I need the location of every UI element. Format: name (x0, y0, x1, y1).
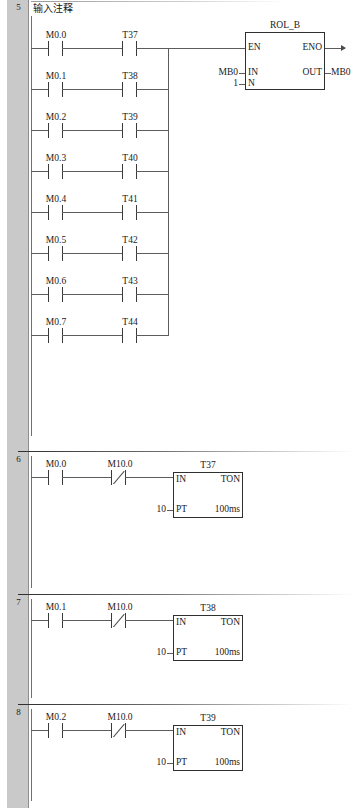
contact-m03[interactable] (48, 164, 63, 179)
contact-t37[interactable] (122, 41, 137, 56)
n8-timer-preset[interactable]: 10 (136, 757, 166, 768)
rung-5-wire-b (62, 212, 123, 213)
n8-wire-c (125, 730, 174, 731)
contact-n8-m02[interactable] (48, 723, 63, 738)
rung-4-wire-a (31, 171, 49, 172)
rung-5-wire-a (31, 212, 49, 213)
n8-timer-pin-pt: PT (176, 757, 187, 768)
n8-timer-timebase: 100ms (192, 757, 240, 768)
rolb-out-stub (325, 73, 331, 74)
rung-4-wire-c (136, 171, 169, 172)
network-5-title-rule (31, 1, 287, 2)
rolb-eno-arrow-icon (341, 45, 346, 51)
n6-timer-instance[interactable]: T37 (173, 460, 243, 471)
contact-m05[interactable] (48, 246, 63, 261)
n7-wire-b (62, 620, 112, 621)
rolb-pin-in: IN (248, 67, 258, 78)
contact-label-m01: M0.1 (38, 71, 74, 82)
contact-n7-m100-nc[interactable] (111, 613, 126, 628)
network-7-gutter (7, 595, 29, 705)
contact-label-t42: T42 (112, 235, 148, 246)
contact-label-t38: T38 (112, 71, 148, 82)
contact-t41[interactable] (122, 205, 137, 220)
network-8[interactable]: 8 M0.2 M10.0 T39 IN TON PT 100ms 10 (0, 705, 353, 808)
network-6[interactable]: 6 M0.0 M10.0 T37 IN TON PT 100ms 10 (0, 452, 353, 595)
rung-3-wire-c (136, 130, 169, 131)
network-5-number: 5 (9, 2, 28, 13)
contact-t44[interactable] (122, 328, 137, 343)
contact-m04[interactable] (48, 205, 63, 220)
parallel-branch-bus (168, 48, 169, 336)
rolb-pin-out: OUT (282, 67, 322, 78)
contact-m01[interactable] (48, 82, 63, 97)
rung-3-wire-a (31, 130, 49, 131)
contact-t40[interactable] (122, 164, 137, 179)
contact-label-m05: M0.5 (38, 235, 74, 246)
network-5-power-rail (31, 16, 32, 436)
rolb-n-value[interactable]: 1 (206, 78, 238, 89)
contact-n6-m00[interactable] (48, 470, 63, 485)
n7-wire-a (31, 620, 49, 621)
rung-7-wire-b (62, 294, 123, 295)
n7-timer-instance[interactable]: T38 (173, 603, 243, 614)
network-6-number: 6 (9, 454, 28, 465)
contact-label-n6-m00: M0.0 (38, 459, 74, 470)
n7-timer-pin-in: IN (176, 617, 186, 628)
rung-3-wire-b (62, 130, 123, 131)
network-8-number: 8 (9, 707, 28, 718)
contact-m02[interactable] (48, 123, 63, 138)
n8-timer-instance[interactable]: T39 (173, 713, 243, 724)
n6-timer-pt-stub (167, 510, 173, 511)
contact-m00[interactable] (48, 41, 63, 56)
n7-wire-c (125, 620, 174, 621)
contact-m06[interactable] (48, 287, 63, 302)
rung-2-wire-a (31, 89, 49, 90)
n7-timer-timebase: 100ms (192, 647, 240, 658)
contact-n6-m100-nc[interactable] (111, 470, 126, 485)
n7-timer-type: TON (200, 617, 240, 628)
contact-label-t40: T40 (112, 153, 148, 164)
network-5[interactable]: 5 输入注释 M0.0 T37 M0.1 T38 M0.2 T39 M0.3 T… (0, 0, 353, 452)
rung-2-wire-b (62, 89, 123, 90)
rung-5-wire-c (136, 212, 169, 213)
contact-label-n8-m100: M10.0 (98, 712, 142, 723)
n6-timer-type: TON (200, 474, 240, 485)
contact-n7-m01[interactable] (48, 613, 63, 628)
rolb-pin-en: EN (248, 42, 261, 53)
rung-2-wire-c (136, 89, 169, 90)
rolb-block[interactable] (245, 32, 325, 90)
rung-8-wire-c (136, 335, 169, 336)
contact-t39[interactable] (122, 123, 137, 138)
rolb-out-value[interactable]: MB0 (331, 67, 351, 78)
n8-wire-b (62, 730, 112, 731)
rolb-in-value[interactable]: MB0 (206, 67, 238, 78)
contact-label-m07: M0.7 (38, 317, 74, 328)
contact-t43[interactable] (122, 287, 137, 302)
rung-6-wire-b (62, 253, 123, 254)
contact-label-n7-m01: M0.1 (38, 602, 74, 613)
rung-1-wire-b (62, 48, 123, 49)
contact-m07[interactable] (48, 328, 63, 343)
n7-timer-pt-stub (167, 653, 173, 654)
n7-timer-preset[interactable]: 10 (136, 647, 166, 658)
n6-timer-preset[interactable]: 10 (136, 504, 166, 515)
contact-label-m06: M0.6 (38, 276, 74, 287)
ladder-diagram-canvas[interactable]: 5 输入注释 M0.0 T37 M0.1 T38 M0.2 T39 M0.3 T… (0, 0, 353, 808)
contact-t38[interactable] (122, 82, 137, 97)
contact-label-m04: M0.4 (38, 194, 74, 205)
network-5-comment[interactable]: 输入注释 (33, 3, 73, 15)
rung-7-wire-a (31, 294, 49, 295)
n6-timer-pin-in: IN (176, 474, 186, 485)
contact-n8-m100-nc[interactable] (111, 723, 126, 738)
network-7[interactable]: 7 M0.1 M10.0 T38 IN TON PT 100ms 10 (0, 595, 353, 705)
rung-1-wire-c (136, 48, 246, 49)
n6-timer-timebase: 100ms (192, 504, 240, 515)
rung-8-wire-b (62, 335, 123, 336)
rolb-pin-n: N (248, 78, 255, 89)
n8-timer-type: TON (200, 727, 240, 738)
contact-label-m03: M0.3 (38, 153, 74, 164)
rolb-block-title: ROL_B (245, 20, 325, 31)
rung-1-wire-a (31, 48, 49, 49)
network-5-gutter (7, 0, 29, 452)
contact-t42[interactable] (122, 246, 137, 261)
